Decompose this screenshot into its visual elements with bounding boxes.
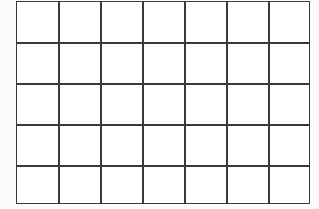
grid-column-divider [184, 2, 186, 203]
grid-column-divider [268, 2, 270, 203]
grid-row-divider [17, 124, 309, 126]
grid-row-divider [17, 83, 309, 85]
grid-column-divider [226, 2, 228, 203]
grid-column-divider [58, 2, 60, 203]
grid-column-divider [100, 2, 102, 203]
empty-grid [16, 1, 310, 204]
grid-column-divider [142, 2, 144, 203]
grid-row-divider [17, 42, 309, 44]
grid-row-divider [17, 165, 309, 167]
